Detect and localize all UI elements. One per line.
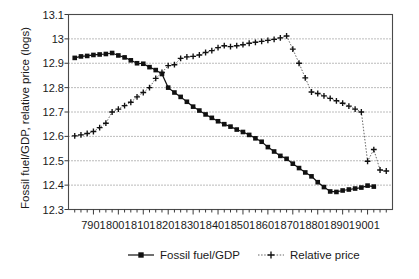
x-axis-tick-label: 9001	[355, 219, 379, 231]
data-point-marker	[247, 133, 252, 138]
data-point-marker	[85, 54, 90, 59]
data-point-marker	[278, 154, 283, 159]
data-point-marker	[240, 42, 246, 48]
data-point-marker	[246, 40, 252, 46]
chart-canvas: Fossil fuel/GDP, relative price (logs) 1…	[0, 0, 419, 279]
data-point-marker	[135, 61, 140, 66]
y-axis-tick-label: 12.5	[43, 155, 64, 167]
data-point-marker	[197, 108, 202, 113]
plus-icon	[268, 252, 275, 259]
chart-legend: Fossil fuel/GDPRelative price	[128, 249, 360, 261]
data-point-marker	[371, 147, 377, 153]
legend-label: Relative price	[290, 249, 360, 261]
x-axis-tick-label: 8501	[231, 219, 255, 231]
y-axis-tick-labels: 12.312.412.512.612.712.812.91313.1	[43, 9, 64, 216]
data-point-marker	[147, 65, 152, 70]
x-axis-tick-label: 8801	[305, 219, 329, 231]
x-axis-tick-label: 7901	[81, 219, 105, 231]
data-point-marker	[78, 132, 84, 138]
data-point-marker	[116, 53, 121, 58]
data-point-marker	[79, 54, 84, 59]
data-point-marker	[191, 104, 196, 109]
data-point-marker	[122, 55, 127, 60]
data-point-marker	[110, 51, 115, 56]
data-point-marker	[84, 131, 90, 137]
data-series-group	[72, 33, 389, 194]
data-point-marker	[203, 112, 208, 117]
chart-figure: Fossil fuel/GDP, relative price (logs) 1…	[0, 0, 419, 279]
data-point-marker	[184, 54, 190, 60]
data-point-marker	[365, 158, 371, 164]
data-point-marker	[266, 145, 271, 150]
data-point-marker	[353, 186, 358, 191]
data-point-marker	[352, 106, 358, 112]
data-point-marker	[271, 36, 277, 42]
data-point-marker	[91, 53, 96, 58]
data-point-marker	[340, 188, 345, 193]
x-axis-tick-label: 8001	[106, 219, 130, 231]
data-point-marker	[259, 139, 264, 144]
data-point-marker	[327, 95, 333, 101]
data-point-marker	[383, 168, 389, 174]
data-point-marker	[315, 180, 320, 185]
data-point-marker	[315, 91, 321, 97]
data-point-marker	[303, 170, 308, 175]
data-point-marker	[234, 43, 240, 49]
data-point-marker	[103, 120, 109, 126]
data-point-marker	[277, 35, 283, 41]
data-point-marker	[334, 98, 340, 104]
data-point-marker	[178, 55, 184, 61]
x-axis-tick-label: 8401	[206, 219, 230, 231]
data-point-marker	[166, 85, 171, 90]
data-point-marker	[377, 167, 383, 173]
data-point-marker	[265, 37, 271, 43]
x-axis-tick-label: 8201	[156, 219, 180, 231]
y-axis-tick-label: 12.9	[43, 57, 64, 69]
data-point-marker	[147, 85, 153, 91]
data-point-marker	[115, 106, 121, 112]
data-point-marker	[91, 129, 97, 135]
data-point-marker	[259, 38, 265, 44]
data-point-marker	[291, 161, 296, 166]
data-point-marker	[290, 46, 296, 52]
data-point-marker	[328, 189, 333, 194]
data-point-marker	[372, 184, 377, 189]
data-point-marker	[122, 103, 128, 109]
data-point-marker	[340, 100, 346, 106]
data-point-marker	[297, 166, 302, 171]
y-axis-tick-label: 13.1	[43, 9, 64, 21]
data-point-marker	[216, 119, 221, 124]
data-point-marker	[359, 185, 364, 190]
data-point-marker	[129, 58, 134, 63]
data-point-marker	[209, 48, 215, 54]
y-axis-ticks	[65, 15, 69, 210]
gridlines	[69, 39, 393, 185]
data-point-marker	[253, 39, 259, 45]
data-point-marker	[172, 62, 178, 68]
x-axis-tick-label: 8101	[131, 219, 155, 231]
data-point-marker	[134, 94, 140, 100]
data-point-marker	[210, 116, 215, 121]
data-point-marker	[153, 68, 158, 73]
data-point-marker	[322, 185, 327, 190]
data-point-marker	[190, 54, 196, 60]
y-axis-tick-label: 12.3	[43, 204, 64, 216]
data-point-marker	[302, 75, 308, 81]
data-point-marker	[228, 44, 234, 50]
y-axis-tick-label: 12.7	[43, 106, 64, 118]
x-axis-tick-label: 8301	[181, 219, 205, 231]
data-point-marker	[72, 56, 77, 61]
data-point-marker	[321, 93, 327, 99]
data-point-marker	[72, 133, 78, 139]
y-axis-tick-label: 12.6	[43, 130, 64, 142]
data-point-marker	[221, 43, 227, 49]
data-point-marker	[284, 33, 290, 39]
data-point-marker	[358, 109, 364, 115]
data-point-marker	[365, 183, 370, 188]
data-point-marker	[178, 95, 183, 100]
data-point-marker	[272, 149, 277, 154]
data-point-marker	[222, 122, 227, 127]
data-point-marker	[185, 99, 190, 104]
data-point-marker	[141, 61, 146, 66]
data-point-marker	[234, 127, 239, 132]
